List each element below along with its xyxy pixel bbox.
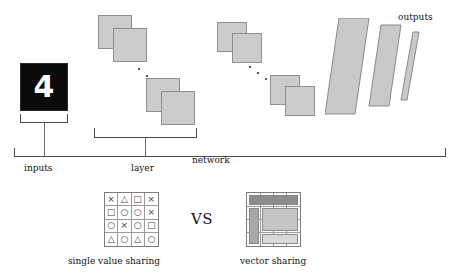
feature-map-square <box>232 33 262 63</box>
symbol-cell: △ <box>132 233 145 246</box>
layer-bracket <box>94 128 197 138</box>
symbol-cell: ○ <box>132 206 145 219</box>
symbol-cell: ○ <box>105 220 118 233</box>
figure-canvas: 4 outputs inputs layer network ×△□×□○○×○… <box>0 0 457 280</box>
layer-label: layer <box>131 163 154 173</box>
vector-band-inner-block <box>262 208 298 231</box>
network-label: network <box>192 155 230 165</box>
feature-map-square <box>161 91 195 125</box>
inputs-label: inputs <box>24 163 52 173</box>
ellipsis-dot <box>146 75 148 77</box>
symbol-cell: △ <box>105 233 118 246</box>
symbol-cell: □ <box>145 220 158 233</box>
single-value-sharing-grid: ×△□×□○○×○×○□△○△○ <box>104 192 159 247</box>
symbol-cell: △ <box>118 193 131 206</box>
input-digit-image: 4 <box>20 63 68 111</box>
vector-band-left-column <box>249 208 259 244</box>
ellipsis-dot <box>138 68 140 70</box>
ellipsis-dot <box>249 66 251 68</box>
symbol-cell: □ <box>105 206 118 219</box>
output-parallelograms <box>325 18 445 118</box>
network-bracket <box>14 148 446 157</box>
symbol-cell: ○ <box>118 206 131 219</box>
grid-line-h <box>247 206 300 207</box>
vector-band-bottom-row <box>262 234 298 244</box>
vector-band-top-row <box>249 195 298 205</box>
input-digit-glyph: 4 <box>21 64 67 110</box>
vector-sharing-grid <box>246 192 301 247</box>
feature-map-square <box>113 28 147 62</box>
vs-label: VS <box>191 210 213 228</box>
symbol-cell: □ <box>132 193 145 206</box>
single-value-sharing-caption: single value sharing <box>68 256 160 266</box>
ellipsis-dot <box>265 78 267 80</box>
symbol-cell: ○ <box>145 233 158 246</box>
output-parallelogram-1 <box>325 18 369 114</box>
vector-sharing-caption: vector sharing <box>240 256 306 266</box>
symbol-cell: × <box>118 220 131 233</box>
feature-map-square <box>285 86 315 116</box>
inputs-bracket <box>20 114 68 123</box>
symbol-cell: × <box>145 193 158 206</box>
symbol-cell: ○ <box>132 220 145 233</box>
symbol-cell: × <box>145 206 158 219</box>
symbol-cell: × <box>105 193 118 206</box>
ellipsis-dot <box>257 72 259 74</box>
output-parallelogram-3 <box>401 32 419 100</box>
output-parallelogram-2 <box>369 25 401 106</box>
outputs-label: outputs <box>398 12 433 22</box>
symbol-cell: ○ <box>118 233 131 246</box>
